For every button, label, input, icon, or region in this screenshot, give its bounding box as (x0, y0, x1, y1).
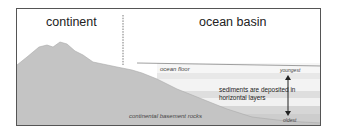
oldest-label: oldest (283, 117, 296, 123)
sediments-note-line2: horizontal layers (219, 94, 295, 102)
diagram-frame: continent ocean basin ocean floor sedime… (16, 8, 321, 126)
sediments-note: sediments are deposited in horizontal la… (219, 86, 295, 101)
basement-rocks-label: continental basement rocks (129, 113, 202, 119)
youngest-label: youngest (280, 67, 300, 73)
continent-label: continent (46, 15, 97, 29)
ocean-floor-label: ocean floor (160, 66, 190, 72)
ocean-basin-label: ocean basin (199, 15, 266, 29)
sediments-note-line1: sediments are deposited in (219, 86, 295, 94)
